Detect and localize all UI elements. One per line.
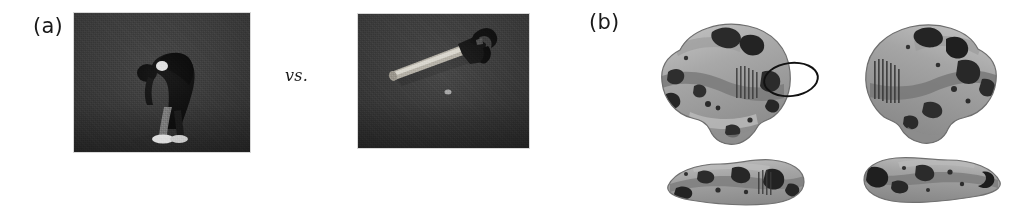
figure-container: (a) vs. xyxy=(0,0,1035,210)
brain-view-right-hemisphere-ventral xyxy=(858,150,1006,206)
person-figure-silhouette xyxy=(74,13,250,152)
brain-view-right-hemisphere-lateral xyxy=(858,17,1008,149)
stimulus-image-action xyxy=(74,13,250,152)
hammer-object xyxy=(358,14,529,148)
brain-view-left-hemisphere-lateral xyxy=(650,16,796,151)
brain-view-left-hemisphere-ventral xyxy=(662,152,810,209)
versus-label: vs. xyxy=(285,66,308,85)
panel-letter-b: (b) xyxy=(589,12,619,33)
stimulus-image-tool xyxy=(358,14,529,148)
panel-letter-a: (a) xyxy=(33,16,63,37)
